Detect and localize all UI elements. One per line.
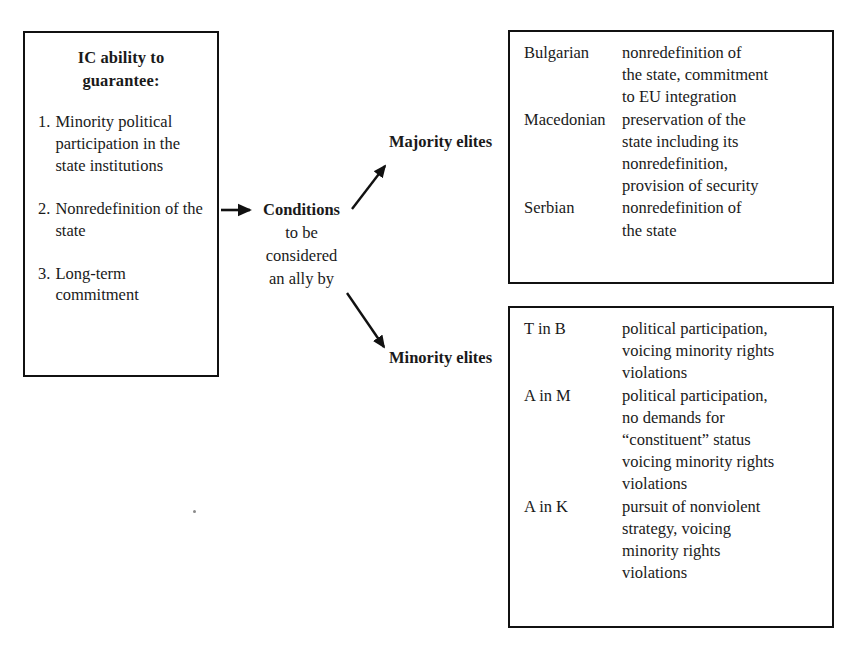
desc-line: state including its bbox=[622, 131, 822, 153]
majority-group-bulgarian: Bulgarian bbox=[510, 42, 622, 64]
arrow-to-minority-elites bbox=[347, 293, 384, 347]
ic-ability-title-line1: IC ability to bbox=[78, 48, 165, 67]
desc-line: nonredefinition, bbox=[622, 153, 822, 175]
desc-line: nonredefinition of bbox=[622, 42, 822, 64]
minority-group-a-in-m: A in M bbox=[510, 385, 622, 407]
majority-group-serbian: Serbian bbox=[510, 197, 622, 219]
minority-elites-table: T in B political participation, voicing … bbox=[508, 306, 834, 628]
desc-line: violations bbox=[622, 473, 822, 495]
condition-text-3: Long-term commitment bbox=[55, 263, 209, 307]
condition-item-2: 2. Nonredefinition of the state bbox=[25, 198, 217, 242]
desc-line: violations bbox=[622, 562, 822, 584]
diagram-canvas: IC ability to guarantee: 1. Minority pol… bbox=[0, 0, 857, 668]
table-row: A in K pursuit of nonviolent strategy, v… bbox=[510, 496, 832, 585]
minority-group-t-in-b: T in B bbox=[510, 318, 622, 340]
condition-text-1: Minority political participation in the … bbox=[55, 111, 209, 177]
desc-line: strategy, voicing bbox=[622, 518, 822, 540]
conditions-center-label: Conditions to be considered an ally by bbox=[233, 198, 370, 290]
majority-elites-table: Bulgarian nonredefinition of the state, … bbox=[508, 30, 834, 284]
desc-line: preservation of the bbox=[622, 109, 822, 131]
conditions-list: 1. Minority political participation in t… bbox=[25, 111, 217, 307]
ic-ability-title-line2: guarantee: bbox=[82, 71, 159, 90]
condition-number-3: 3. bbox=[38, 263, 55, 285]
desc-line: minority rights bbox=[622, 540, 822, 562]
conditions-subline-3: an ally by bbox=[233, 267, 370, 290]
desc-line: violations bbox=[622, 362, 822, 384]
desc-line: voicing minority rights bbox=[622, 451, 822, 473]
desc-line: political participation, bbox=[622, 385, 822, 407]
majority-group-macedonian: Macedonian bbox=[510, 109, 622, 131]
desc-line: political participation, bbox=[622, 318, 822, 340]
desc-line: provision of security bbox=[622, 175, 822, 197]
conditions-subline-1: to be bbox=[233, 221, 370, 244]
ic-ability-title: IC ability to guarantee: bbox=[25, 46, 217, 93]
table-row: A in M political participation, no deman… bbox=[510, 385, 832, 496]
condition-number-1: 1. bbox=[38, 111, 55, 133]
conditions-heading: Conditions bbox=[233, 198, 370, 221]
majority-desc-bulgarian: nonredefinition of the state, commitment… bbox=[622, 42, 832, 109]
desc-line: no demands for bbox=[622, 407, 822, 429]
minority-desc-t-in-b: political participation, voicing minorit… bbox=[622, 318, 832, 385]
desc-line: voicing minority rights bbox=[622, 340, 822, 362]
desc-line: “constituent” status bbox=[622, 429, 822, 451]
condition-text-2: Nonredefinition of the state bbox=[55, 198, 209, 242]
desc-line: nonredefinition of bbox=[622, 197, 822, 219]
minority-group-a-in-k: A in K bbox=[510, 496, 622, 518]
table-row: Serbian nonredefinition of the state bbox=[510, 197, 832, 241]
desc-line: the state, commitment bbox=[622, 64, 822, 86]
minority-elites-label: Minority elites bbox=[389, 348, 492, 368]
minority-desc-a-in-m: political participation, no demands for … bbox=[622, 385, 832, 496]
majority-elites-label: Majority elites bbox=[389, 132, 492, 152]
minority-desc-a-in-k: pursuit of nonviolent strategy, voicing … bbox=[622, 496, 832, 585]
majority-desc-serbian: nonredefinition of the state bbox=[622, 197, 832, 241]
table-row: Macedonian preservation of the state inc… bbox=[510, 109, 832, 198]
desc-line: to EU integration bbox=[622, 86, 822, 108]
page-speck bbox=[193, 510, 196, 513]
conditions-subline-2: considered bbox=[233, 244, 370, 267]
ic-ability-box: IC ability to guarantee: 1. Minority pol… bbox=[23, 31, 219, 377]
table-row: Bulgarian nonredefinition of the state, … bbox=[510, 42, 832, 109]
condition-item-3: 3. Long-term commitment bbox=[25, 263, 217, 307]
majority-desc-macedonian: preservation of the state including its … bbox=[622, 109, 832, 198]
condition-item-1: 1. Minority political participation in t… bbox=[25, 111, 217, 177]
condition-number-2: 2. bbox=[38, 198, 55, 220]
table-row: T in B political participation, voicing … bbox=[510, 318, 832, 385]
desc-line: pursuit of nonviolent bbox=[622, 496, 822, 518]
desc-line: the state bbox=[622, 220, 822, 242]
